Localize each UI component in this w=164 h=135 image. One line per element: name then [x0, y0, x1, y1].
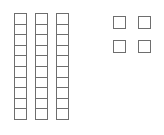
unit-square — [113, 16, 126, 29]
tens-rod — [56, 13, 69, 120]
unit-square — [138, 40, 151, 53]
rod-unit-cell — [56, 108, 69, 120]
unit-square — [113, 40, 126, 53]
rod-unit-cell — [14, 108, 27, 120]
rod-unit-cell — [35, 108, 48, 120]
tens-rod — [14, 13, 27, 120]
base-ten-blocks-diagram: 34 — [0, 0, 164, 135]
tens-rod — [35, 13, 48, 120]
unit-square — [138, 16, 151, 29]
